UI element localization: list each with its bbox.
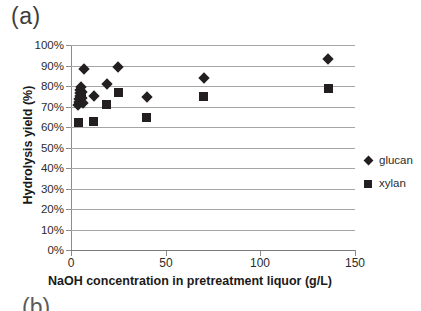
data-point-xylan	[324, 84, 333, 93]
legend-item-xylan: xylan	[362, 172, 420, 195]
diamond-marker-icon	[362, 155, 374, 167]
gridline-y	[71, 209, 355, 210]
data-point-glucan	[323, 54, 334, 65]
y-axis-tick	[66, 148, 71, 149]
gridline-y	[71, 127, 355, 128]
legend-item-label: glucan	[379, 154, 413, 167]
gridline-y	[71, 148, 355, 149]
x-axis-tick-label: 150	[335, 256, 375, 270]
y-axis-tick	[66, 209, 71, 210]
y-axis-title: Hydrolysis yield (%)	[21, 55, 35, 235]
gridline-y	[71, 189, 355, 190]
data-point-glucan	[101, 78, 112, 89]
legend-item-glucan: glucan	[362, 149, 420, 172]
y-axis-tick	[66, 86, 71, 87]
y-axis-tick	[66, 107, 71, 108]
data-point-xylan	[77, 90, 86, 99]
y-axis-tick	[66, 189, 71, 190]
x-axis-tick-label: 50	[146, 256, 186, 270]
data-point-glucan	[141, 92, 152, 103]
data-point-glucan	[198, 72, 209, 83]
y-axis-tick	[66, 127, 71, 128]
gridline-y	[71, 107, 355, 108]
gridline-y	[71, 230, 355, 231]
data-point-xylan	[74, 118, 83, 127]
chart-legend: glucanxylan	[362, 149, 420, 195]
legend-item-label: xylan	[379, 177, 406, 190]
next-panel-label: (b)	[22, 293, 50, 311]
data-point-xylan	[142, 113, 151, 122]
y-axis-tick-label: 0%	[22, 244, 64, 256]
y-axis-tick	[66, 45, 71, 46]
x-axis-tick-label: 0	[51, 256, 91, 270]
data-point-glucan	[79, 63, 90, 74]
data-point-glucan	[113, 61, 124, 72]
gridline-y	[71, 168, 355, 169]
y-axis-tick	[66, 66, 71, 67]
gridline-y	[71, 250, 355, 251]
data-point-xylan	[199, 92, 208, 101]
plot-area	[71, 45, 355, 250]
y-axis-tick-label: 100%	[22, 39, 64, 51]
gridline-y	[71, 45, 355, 46]
y-axis-tick	[66, 168, 71, 169]
x-axis-title: NaOH concentration in pretreatment liquo…	[0, 274, 380, 288]
data-point-glucan	[88, 91, 99, 102]
square-marker-icon	[362, 178, 374, 190]
data-point-xylan	[89, 117, 98, 126]
x-axis-tick-label: 100	[240, 256, 280, 270]
data-point-xylan	[102, 100, 111, 109]
figure-panel-a: (a) 0%10%20%30%40%50%60%70%80%90%100% Hy…	[0, 0, 421, 311]
data-point-xylan	[114, 88, 123, 97]
y-axis-tick	[66, 230, 71, 231]
